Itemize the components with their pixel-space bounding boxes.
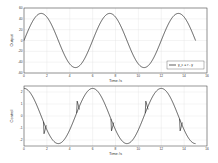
y-tick-label: 1 — [21, 102, 23, 106]
y-tick-label: -1 — [20, 126, 23, 130]
x-tick-label: 12 — [159, 74, 163, 78]
y-tick-label: 40 — [19, 17, 23, 21]
x-tick-label: 2 — [46, 74, 48, 78]
figure: 02468101214166040200-20-40-60Time /sOutp… — [0, 0, 218, 163]
x-tick-label: 4 — [69, 147, 71, 151]
y-axis-label: Output — [9, 34, 14, 47]
x-tick-label: 0 — [23, 74, 25, 78]
x-tick-label: 2 — [46, 147, 48, 151]
x-tick-label: 6 — [92, 147, 94, 151]
x-axis-label: Time /s — [109, 78, 122, 83]
x-axis-label: Time /s — [109, 151, 122, 156]
x-tick-label: 16 — [205, 74, 209, 78]
x-tick-label: 12 — [159, 147, 163, 151]
legend: y_c = r - y — [167, 61, 204, 69]
y-tick-label: 2 — [21, 90, 23, 94]
x-tick-label: 14 — [182, 74, 186, 78]
legend-entry: y_c = r - y — [178, 63, 193, 67]
y-tick-label: 20 — [19, 28, 23, 32]
y-tick-label: 0 — [21, 39, 23, 43]
y-tick-label: -60 — [18, 71, 23, 75]
x-tick-label: 10 — [137, 74, 141, 78]
y-tick-label: 60 — [19, 6, 23, 10]
y-tick-label: -20 — [18, 49, 23, 53]
x-tick-label: 16 — [205, 147, 209, 151]
x-tick-label: 0 — [23, 147, 25, 151]
control-plot: 0246810121416210-1-2Time /sControl — [9, 86, 209, 156]
x-tick-label: 10 — [137, 147, 141, 151]
x-tick-label: 6 — [92, 74, 94, 78]
x-tick-label: 14 — [182, 147, 186, 151]
y-axis-label: Control — [9, 109, 14, 122]
x-tick-label: 4 — [69, 74, 71, 78]
y-tick-label: -2 — [20, 138, 23, 142]
y-tick-label: -40 — [18, 60, 23, 64]
y-tick-label: 0 — [21, 114, 23, 118]
output-plot: 02468101214166040200-20-40-60Time /sOutp… — [9, 6, 209, 82]
